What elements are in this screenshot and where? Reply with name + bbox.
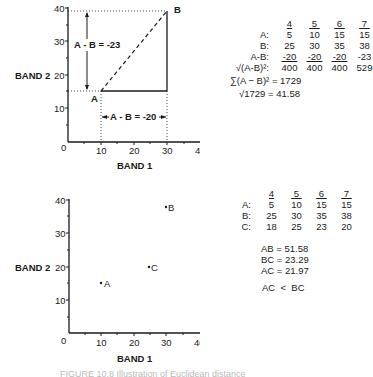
x-axis-label: BAND 1: [117, 160, 153, 171]
point-a-label: A: [91, 93, 98, 104]
bottom-values-table: 4 5 6 7 A: 5101515 B: 25303538 C: 182523…: [219, 188, 359, 232]
x-axis-label: BAND 1: [117, 353, 153, 363]
point-a-label: A: [104, 278, 111, 289]
y-tick-40: 40: [54, 3, 65, 14]
column-header: 4: [277, 18, 302, 29]
point-b-label: B: [174, 4, 181, 15]
y-axis-label: BAND 2: [15, 262, 50, 273]
arrow-down-icon: [85, 85, 89, 90]
table-row: B: 25303538: [219, 210, 359, 221]
top-distance-table: 4 5 6 7 A: 5101515 B: 25303538 A-B: -20-…: [229, 18, 373, 73]
x-tick-10: 10: [96, 337, 107, 348]
y-tick-30: 30: [54, 36, 65, 47]
distance-ac: AC = 21.97: [261, 265, 309, 276]
y-tick-40: 40: [55, 195, 66, 206]
y-tick-30: 30: [55, 228, 66, 239]
column-header: 5: [302, 18, 327, 29]
column-header: 7: [334, 188, 359, 199]
distance-ab: AB = 51.58: [261, 243, 308, 254]
y-tick-20: 20: [55, 262, 66, 273]
x-tick-30: 30: [162, 145, 173, 156]
distance-bc: BC = 23.29: [261, 254, 309, 265]
vertical-annotation: A - B = -23: [74, 39, 120, 50]
column-header: 6: [327, 18, 352, 29]
y-tick-10: 10: [54, 103, 65, 114]
point-c-label: C: [151, 262, 158, 273]
column-header: 4: [259, 188, 284, 199]
x-tick-40: 40: [195, 145, 200, 156]
table-row: A: 5101515: [229, 29, 373, 40]
origin-label: 0: [61, 142, 66, 153]
column-header: 7: [352, 18, 373, 29]
arrow-up-icon: [85, 12, 89, 17]
x-tick-10: 10: [96, 145, 107, 156]
arrow-right-icon: [161, 115, 166, 119]
x-tick-20: 20: [129, 337, 140, 348]
point-b-label: B: [168, 202, 174, 213]
point-c-marker: [148, 266, 150, 268]
distance-comparison: AC < BC: [262, 282, 305, 293]
horizontal-annotation: A - B = -20: [110, 111, 156, 122]
x-tick-40: 40: [194, 337, 200, 348]
x-tick-20: 20: [129, 145, 140, 156]
y-axis-label: BAND 2: [15, 70, 50, 81]
y-tick-20: 20: [54, 70, 65, 81]
column-header: 5: [284, 188, 309, 199]
euclidean-distance-result: √1729 = 41.58: [239, 88, 300, 99]
arrow-left-icon: [102, 115, 107, 119]
table-row: A: 5101515: [219, 199, 359, 210]
table-row: A-B: -20-20-20-23: [229, 51, 373, 62]
point-b-marker: [165, 206, 167, 208]
column-header: 6: [309, 188, 334, 199]
bottom-plot: A B C 40 30 20 10 0 10 20 30 40 BAND 2 B…: [0, 188, 200, 363]
x-tick-30: 30: [161, 337, 172, 348]
figure-caption: FIGURE 10.8 Illustration of Euclidean di…: [60, 369, 246, 377]
top-plot: A - B = -23 A - B = -20 40 30 20 10 0 10…: [0, 0, 200, 185]
table-row: √(A-B)²: 400400400529: [229, 62, 373, 73]
table-row: B: 25303538: [229, 40, 373, 51]
sum-of-squares: ∑(A − B)² = 1729: [230, 75, 301, 86]
y-tick-10: 10: [55, 295, 66, 306]
origin-label: 0: [61, 335, 66, 346]
point-a-marker: [100, 282, 102, 284]
table-row: C: 18252320: [219, 221, 359, 232]
